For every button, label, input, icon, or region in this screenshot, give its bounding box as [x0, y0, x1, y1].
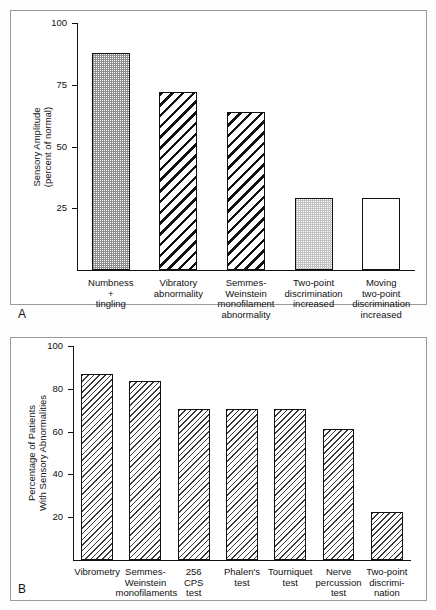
- bar-chart-a: 255075100Sensory Amplitude(percent of no…: [11, 11, 426, 304]
- y-axis-tick: [72, 23, 78, 24]
- panel-a-letter: A: [18, 307, 26, 321]
- figure-page: 255075100Sensory Amplitude(percent of no…: [0, 0, 436, 610]
- bar: [371, 512, 403, 560]
- bar: [323, 429, 355, 560]
- bar: [295, 198, 333, 270]
- bar: [362, 198, 400, 270]
- bar: [129, 381, 161, 560]
- y-axis-tick: [68, 346, 74, 347]
- bar: [178, 409, 210, 560]
- bar: [274, 409, 306, 560]
- y-axis-title-line-2: (percent of normal): [41, 8, 52, 285]
- x-axis-category-label-line: nation: [357, 588, 417, 599]
- x-axis-category-label: Movingtwo-pointdiscriminationincreased: [339, 278, 423, 320]
- y-axis-title: Percentage of PatientsWith Sensory Abnor…: [26, 331, 48, 575]
- x-axis-category-label-line: test: [164, 588, 224, 599]
- y-axis-title-line-1: Sensory Amplitude: [30, 8, 41, 285]
- y-axis-tick: [68, 389, 74, 390]
- bar: [159, 92, 197, 270]
- bar: [92, 53, 130, 270]
- x-axis-category-label-line: increased: [339, 310, 423, 321]
- x-axis-category-label-line: abnormality: [204, 310, 288, 321]
- y-axis-tick: [68, 474, 74, 475]
- y-axis-tick: [72, 85, 78, 86]
- y-axis-tick: [72, 208, 78, 209]
- panel-b-letter: B: [18, 582, 26, 596]
- y-axis-title-line-1: Percentage of Patients: [26, 331, 37, 575]
- x-axis-category-label-line: tingling: [69, 299, 153, 310]
- y-axis-title-line-2: With Sensory Abnormalities: [37, 331, 48, 575]
- chart-panel-a: 255075100Sensory Amplitude(percent of no…: [10, 10, 427, 305]
- x-axis-baseline: [77, 270, 415, 271]
- x-axis-baseline: [73, 560, 411, 561]
- x-axis-category-label: Two-pointdiscrimi-nation: [357, 567, 417, 599]
- y-axis-line: [73, 346, 74, 560]
- bar: [226, 409, 258, 560]
- x-axis-category-label-line: Moving: [339, 278, 423, 289]
- y-axis-tick: [68, 517, 74, 518]
- y-axis-title: Sensory Amplitude(percent of normal): [30, 8, 52, 285]
- bar: [81, 374, 113, 560]
- bar: [227, 112, 265, 270]
- y-axis-tick: [68, 432, 74, 433]
- bar-chart-b: 20406080100Percentage of PatientsWith Se…: [11, 338, 426, 600]
- x-axis-category-label-line: discrimination: [339, 299, 423, 310]
- chart-panel-b: 20406080100Percentage of PatientsWith Se…: [10, 337, 427, 601]
- x-axis-category-label-line: Two-point: [357, 567, 417, 578]
- y-axis-tick: [72, 147, 78, 148]
